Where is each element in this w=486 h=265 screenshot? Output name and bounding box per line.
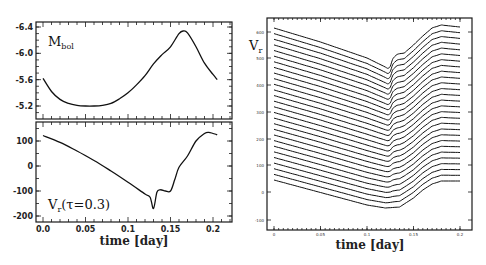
velocity-xtick-label: 0.2 — [206, 225, 220, 234]
left-x-axis-title: time [day] — [99, 234, 168, 248]
right-ytick-label: 0 — [261, 190, 264, 195]
right-ytick-label: 500 — [256, 56, 264, 61]
velocity-xtick-label: 0.15 — [161, 225, 181, 234]
velocity-xtick-label: 0.05 — [76, 225, 96, 234]
velocity-panel: 1000-100-2000.00.050.10.150.2 Vr(τ=0.3) … — [13, 122, 232, 248]
mbol-ytick-label: -6.4 — [16, 23, 34, 32]
stacked-velocity-series — [274, 25, 460, 68]
mbol-ytick-label: -6.0 — [16, 49, 34, 58]
mbol-ytick-label: -5.6 — [16, 76, 34, 85]
mbol-label: Mbol — [48, 34, 74, 51]
right-xtick-label: 0.2 — [457, 232, 464, 237]
right-xtick-label: 0.15 — [409, 232, 418, 237]
velocity-ytick-label: 0 — [27, 162, 33, 171]
velocity-xtick-label: 0.1 — [121, 225, 136, 234]
right-xtick-label: 0 — [273, 232, 276, 237]
velocity-ytick-label: -200 — [13, 212, 33, 221]
mbol-ytick-label: -5.2 — [16, 102, 34, 111]
right-ytick-label: 100 — [256, 163, 264, 168]
mbol-panel: -6.4-6.0-5.6-5.2 Mbol — [16, 22, 233, 119]
right-y-label: Vr — [248, 38, 262, 55]
right-ytick-label: -100 — [255, 218, 265, 223]
velocity-ytick-label: -100 — [13, 187, 33, 196]
right-xtick-label: 0.1 — [364, 232, 371, 237]
right-ytick-label: 200 — [256, 137, 264, 142]
right-ytick-label: 300 — [256, 110, 264, 115]
chart-figure: -6.4-6.0-5.6-5.2 Mbol 1000-100-2000.00.0… — [0, 0, 486, 265]
right-xtick-label: 0.05 — [316, 232, 325, 237]
velocity-ytick-label: 100 — [16, 137, 33, 146]
velocity-label: Vr(τ=0.3) — [47, 197, 110, 214]
velocity-xtick-label: 0.0 — [36, 225, 51, 234]
stacked-velocity-curves — [274, 25, 460, 208]
right-ytick-label: 400 — [256, 83, 264, 88]
stacked-velocity-panel: 6005004003002001000-10000.050.10.150.2 V… — [248, 18, 472, 252]
stacked-velocity-series — [274, 31, 460, 74]
right-ytick-label: 600 — [256, 30, 264, 35]
mbol-plot-frame — [36, 22, 232, 119]
right-x-axis-title: time [day] — [335, 238, 404, 252]
